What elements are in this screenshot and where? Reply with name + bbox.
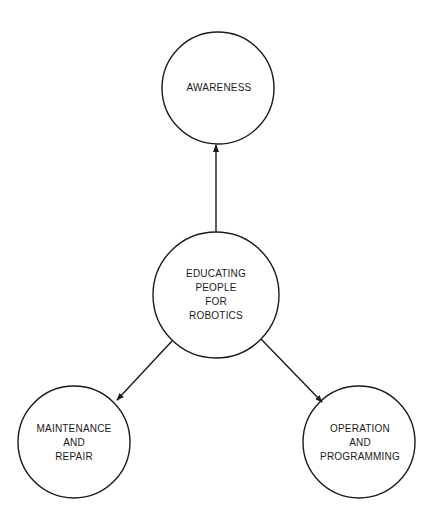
edge-center-to-operation: [261, 339, 322, 402]
node-center-label: EDUCATING PEOPLE FOR ROBOTICS: [186, 267, 246, 323]
label-line: OPERATION: [320, 422, 400, 436]
label-line: REPAIR: [37, 450, 112, 464]
label-line: PROGRAMMING: [320, 450, 400, 464]
label-line: PEOPLE: [186, 281, 246, 295]
node-operation-label: OPERATION AND PROGRAMMING: [320, 422, 400, 464]
edge-center-to-maintenance: [117, 341, 172, 400]
label-line: MAINTENANCE: [37, 422, 112, 436]
label-line: ROBOTICS: [186, 309, 246, 323]
label-line: AND: [320, 436, 400, 450]
label-line: FOR: [186, 295, 246, 309]
node-awareness-label: AWARENESS: [187, 81, 252, 95]
node-maintenance-label: MAINTENANCE AND REPAIR: [37, 422, 112, 464]
label-line: EDUCATING: [186, 267, 246, 281]
label-line: AWARENESS: [187, 81, 252, 95]
label-line: AND: [37, 436, 112, 450]
